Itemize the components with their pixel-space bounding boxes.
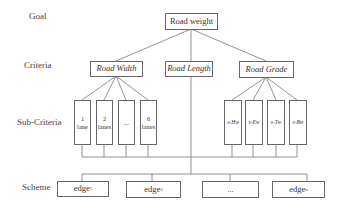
sub-criteria-s-bw: s-Bw [289, 100, 307, 145]
level-label-sub-criteria: Sub-Criteria [17, 117, 62, 127]
criteria-node-road-width: Road Width [90, 61, 143, 77]
scheme-label: edge [144, 185, 160, 194]
scheme-subscript: 2 [160, 187, 163, 193]
sub-criteria-lane-2: 2 lanes [96, 100, 113, 145]
scheme-edge-2: edge2 [126, 181, 181, 198]
sub-criteria-number: 6 [147, 115, 150, 122]
sub-criteria-unit: lanes [142, 123, 155, 130]
sub-criteria-unit: lanes [98, 123, 111, 130]
criteria-node-road-grade: Road Grade [239, 61, 294, 78]
sub-criteria-lane-6: 6 lanes [140, 100, 157, 145]
scheme-edge-1: edge1 [57, 181, 109, 197]
scheme-label: edge [74, 184, 90, 193]
scheme-label: ... [227, 185, 233, 194]
scheme-edge-n: edgen [272, 181, 325, 198]
sub-criteria-unit: lane [77, 123, 88, 130]
sub-criteria-number: 2 [103, 115, 106, 122]
sub-criteria-lane-1: 1 lane [74, 100, 91, 145]
scheme-edge-ellipsis: ... [202, 181, 259, 198]
sub-criteria-lane-ellipsis: ... [118, 100, 135, 145]
level-label-scheme: Scheme [22, 182, 51, 192]
level-label-criteria: Criteria [24, 60, 52, 70]
criteria-node-road-length: Road Length [165, 61, 213, 77]
sub-criteria-s-tw: s-Tw [267, 100, 285, 145]
sub-criteria-s-ew: s-Ew [245, 100, 263, 145]
sub-criteria-number: 1 [81, 115, 84, 122]
level-label-goal: Goal [29, 11, 47, 21]
sub-criteria-number: ... [124, 119, 129, 126]
scheme-subscript: n [305, 187, 308, 193]
goal-node: Road weight [165, 13, 218, 30]
scheme-label: edge [289, 185, 305, 194]
sub-criteria-s-hw: s-Hw [224, 100, 242, 145]
scheme-subscript: 1 [90, 186, 93, 192]
